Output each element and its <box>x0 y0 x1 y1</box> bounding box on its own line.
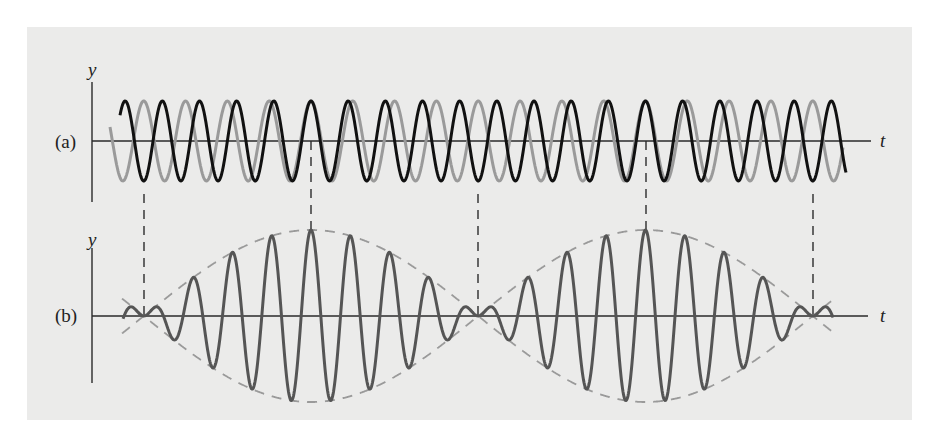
y-axis-label-b: y <box>88 230 96 249</box>
envelope-lower <box>122 316 835 402</box>
beats-diagram <box>0 0 938 436</box>
t-axis-label-b: t <box>880 306 885 325</box>
resultant-wave <box>123 230 833 401</box>
y-axis-label-a: y <box>88 60 96 79</box>
panel-label-b: (b) <box>55 306 77 325</box>
panel-label-a: (a) <box>55 132 76 151</box>
t-axis-label-a: t <box>880 131 885 150</box>
